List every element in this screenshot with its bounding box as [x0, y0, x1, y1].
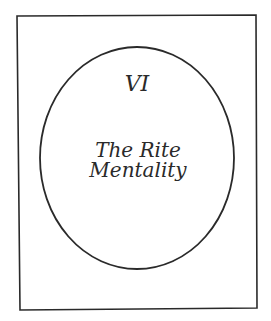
chapter-title-page: VI The Rite Mentality: [0, 0, 271, 321]
chapter-title-line-2: Mentality: [0, 161, 271, 181]
chapter-number: VI: [0, 71, 271, 97]
chapter-title: The Rite Mentality: [0, 141, 271, 180]
